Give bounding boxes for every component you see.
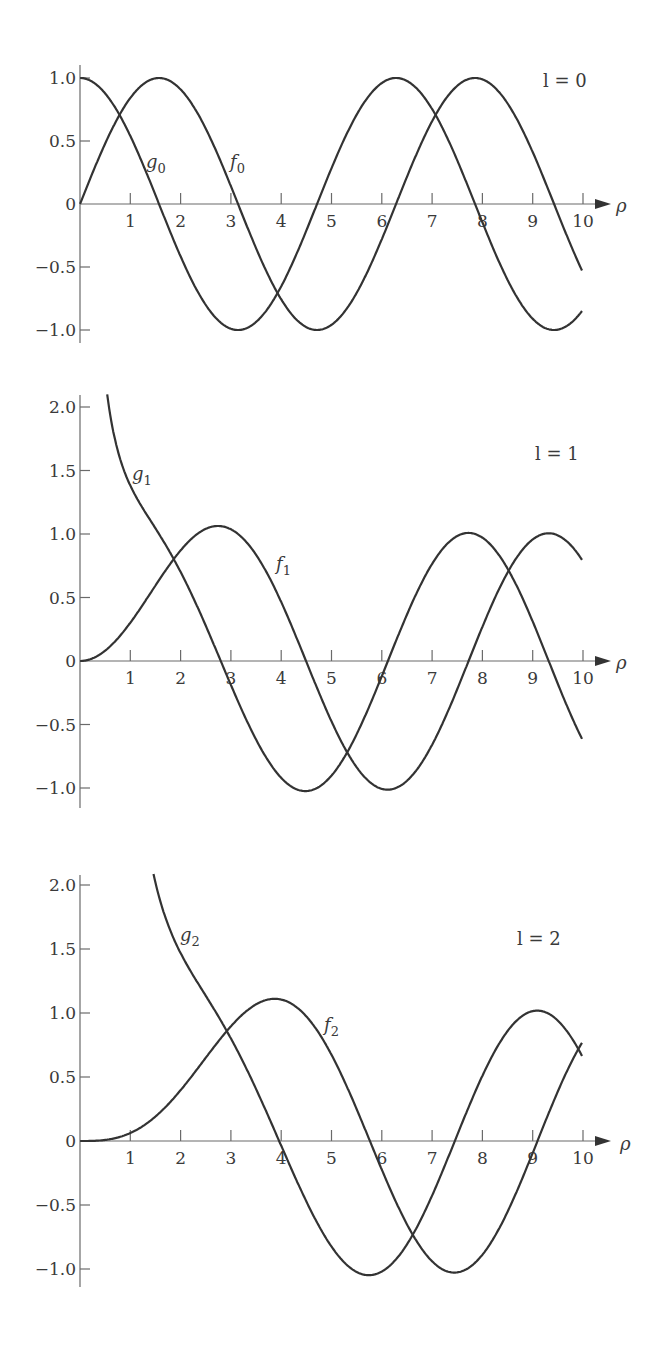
- x-axis: 12345678910: [80, 193, 611, 231]
- f2-label: f2: [322, 1014, 339, 1039]
- y-tick-label: 0: [65, 194, 76, 214]
- g2-label-sub: 2: [192, 934, 200, 949]
- f1-label-sub: 1: [283, 563, 291, 578]
- x-tick-label: 1: [125, 668, 136, 688]
- x-tick-label: 3: [225, 211, 236, 231]
- x-tick-label: 9: [527, 211, 538, 231]
- y-tick-label: −0.5: [35, 715, 76, 735]
- x-tick-label: 7: [427, 211, 438, 231]
- y-tick-label: 0: [65, 651, 76, 671]
- f1-label: f1: [274, 553, 291, 578]
- rho-axis-label: ρ: [619, 1133, 631, 1154]
- l-annotation: l = 2: [517, 928, 561, 949]
- curve-g1: [107, 394, 582, 791]
- y-tick-label: −1.0: [35, 778, 76, 798]
- y-axis: 2.01.51.00.50−0.5−1.0: [35, 395, 90, 808]
- y-tick-label: 2.0: [49, 875, 76, 895]
- g0-label-sub: 0: [158, 161, 166, 176]
- y-tick-label: 1.0: [49, 68, 76, 88]
- g1-label: g1: [132, 463, 152, 488]
- x-tick-label: 8: [477, 668, 488, 688]
- rho-axis-label: ρ: [615, 652, 627, 673]
- x-tick-label: 4: [276, 1148, 287, 1168]
- x-tick-label: 9: [527, 668, 538, 688]
- x-tick-label: 10: [572, 1148, 594, 1168]
- x-tick-label: 2: [175, 211, 186, 231]
- y-tick-label: −0.5: [35, 257, 76, 277]
- x-tick-label: 5: [326, 211, 337, 231]
- l-annotation: l = 0: [543, 70, 587, 91]
- panel-l0: 1.00.50−0.5−1.0 12345678910 l = 0 g0 f0 …: [35, 65, 627, 343]
- x-tick-label: 10: [572, 211, 594, 231]
- y-tick-label: 1.5: [49, 939, 76, 959]
- y-tick-label: 0: [65, 1131, 76, 1151]
- y-tick-label: −1.0: [35, 320, 76, 340]
- g2-label: g2: [180, 924, 200, 949]
- f2-label-sub: 2: [331, 1024, 339, 1039]
- x-axis-arrow-icon: [595, 656, 611, 666]
- x-tick-label: 8: [477, 1148, 488, 1168]
- g2-label-main: g: [180, 924, 192, 945]
- y-tick-label: 2.0: [49, 397, 76, 417]
- x-axis: 12345678910: [80, 1130, 611, 1168]
- g1-label-sub: 1: [144, 473, 152, 488]
- x-axis-arrow-icon: [595, 199, 611, 209]
- x-tick-label: 1: [125, 211, 136, 231]
- y-tick-label: 0.5: [49, 588, 76, 608]
- x-tick-label: 10: [572, 668, 594, 688]
- curves: [80, 394, 582, 791]
- x-tick-label: 2: [175, 1148, 186, 1168]
- x-tick-label: 7: [427, 668, 438, 688]
- f0-label: f0: [228, 151, 245, 176]
- y-tick-label: 0.5: [49, 131, 76, 151]
- x-tick-label: 3: [225, 1148, 236, 1168]
- g0-label: g0: [146, 151, 166, 176]
- y-tick-label: −0.5: [35, 1195, 76, 1215]
- l-annotation: l = 1: [535, 443, 579, 464]
- x-tick-label: 5: [326, 1148, 337, 1168]
- x-tick-label: 5: [326, 668, 337, 688]
- y-tick-label: 1.0: [49, 524, 76, 544]
- panel-l2: 2.01.51.00.50−0.5−1.0 12345678910 l = 2 …: [35, 874, 631, 1287]
- y-tick-label: −1.0: [35, 1259, 76, 1279]
- x-axis-arrow-icon: [595, 1136, 611, 1146]
- x-axis: 12345678910: [80, 650, 611, 688]
- y-tick-label: 0.5: [49, 1067, 76, 1087]
- y-tick-label: 1.5: [49, 461, 76, 481]
- x-tick-label: 2: [175, 668, 186, 688]
- g0-label-main: g: [146, 151, 158, 172]
- panel-l1: 2.01.51.00.50−0.5−1.0 12345678910 l = 1 …: [35, 394, 627, 808]
- x-tick-label: 7: [427, 1148, 438, 1168]
- x-tick-label: 4: [276, 211, 287, 231]
- x-tick-label: 4: [276, 668, 287, 688]
- x-tick-label: 1: [125, 1148, 136, 1168]
- f0-label-sub: 0: [237, 161, 245, 176]
- g1-label-main: g: [132, 463, 144, 484]
- figure: 1.00.50−0.5−1.0 12345678910 l = 0 g0 f0 …: [0, 0, 669, 1354]
- rho-axis-label: ρ: [615, 195, 627, 216]
- curves: [80, 874, 582, 1275]
- y-tick-label: 1.0: [49, 1003, 76, 1023]
- y-axis: 2.01.51.00.50−0.5−1.0: [35, 875, 90, 1287]
